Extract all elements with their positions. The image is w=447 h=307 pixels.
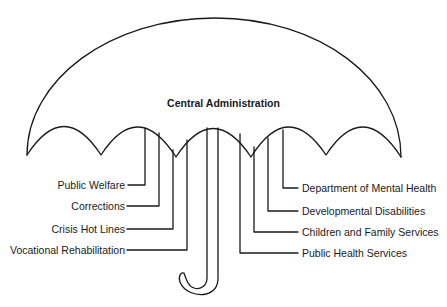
label-developmental-disabilities: Developmental Disabilities	[302, 205, 425, 217]
label-vocational-rehabilitation: Vocational Rehabilitation	[10, 244, 125, 256]
central-administration-label: Central Administration	[0, 97, 447, 109]
label-children-family-services: Children and Family Services	[302, 226, 439, 238]
label-crisis-hot-lines: Crisis Hot Lines	[51, 223, 125, 235]
connector-public-health-services	[240, 134, 298, 253]
connector-vocational-rehabilitation	[127, 140, 187, 250]
umbrella-handle	[179, 128, 218, 295]
label-public-welfare: Public Welfare	[57, 179, 125, 191]
label-public-health-services: Public Health Services	[302, 247, 407, 259]
label-department-mental-health: Department of Mental Health	[302, 182, 436, 194]
umbrella-canopy	[27, 18, 401, 157]
umbrella-scallops	[27, 127, 401, 158]
umbrella-diagram	[0, 0, 447, 307]
connector-department-mental-health	[283, 130, 298, 188]
connector-corrections	[127, 133, 159, 206]
label-corrections: Corrections	[71, 200, 125, 212]
connector-crisis-hot-lines	[127, 150, 173, 229]
connector-children-family-services	[254, 147, 298, 232]
connector-public-welfare	[128, 128, 145, 185]
